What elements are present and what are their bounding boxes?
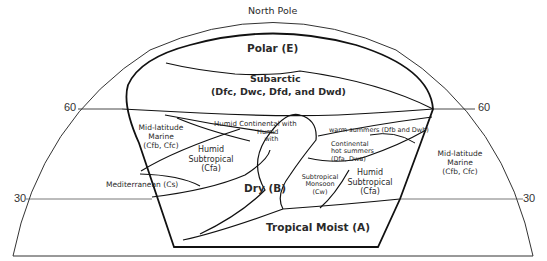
region-tropical-moist: Tropical Moist (A) xyxy=(266,221,370,234)
region-polar: Polar (E) xyxy=(247,42,298,55)
lat-30-east-label: 30 xyxy=(523,192,535,204)
hs-west-line1: Humid xyxy=(186,145,236,155)
mlm-east-line2: Marine xyxy=(432,158,488,167)
hs-west-line2: Subtropical xyxy=(186,155,236,165)
lat-60-east-label: 60 xyxy=(478,101,490,113)
region-mlm-west: Mid-latitude Marine (Cfb, Cfc) xyxy=(136,123,186,150)
region-subarctic-codes: (Dfc, Dwc, Dfd, and Dwd) xyxy=(211,86,346,97)
tropical-boundary xyxy=(183,199,400,240)
mlm-west-line2: Marine xyxy=(136,132,186,141)
mlm-west-line3: (Cfb, Cfc) xyxy=(136,141,186,150)
mlm-east-pointer xyxy=(370,134,415,143)
region-humid-continental-with: Humid Continental with xyxy=(214,120,297,128)
region-subarctic-title: Subarctic xyxy=(250,73,301,84)
lat-60-west-label: 60 xyxy=(64,101,76,113)
humid-with-line2: with xyxy=(257,136,278,143)
hs-east-line3: (Cfa) xyxy=(342,187,398,197)
mlm-east-line1: Mid-latitude xyxy=(432,149,488,158)
cont-hot-line3: (Dfa, Dwa) xyxy=(331,156,374,163)
region-warm-summers: warm summers (Dfb and Dwb) xyxy=(329,127,429,134)
hs-east-line1: Humid xyxy=(342,168,398,178)
region-continental-hot: Continental hot summers (Dfa, Dwa) xyxy=(331,141,374,163)
subarctic-boundary xyxy=(122,109,433,116)
hs-east-line2: Subtropical xyxy=(342,178,398,188)
mlm-east-line3: (Cfb, Cfc) xyxy=(432,167,488,176)
climate-diagram: North Pole 60 60 30 30 Polar (E) Subarct… xyxy=(0,0,547,261)
region-subtropical-monsoon: Subtropical Monsoon (Cw) xyxy=(300,174,340,196)
region-mediterranean: Mediterranean (Cs) xyxy=(106,180,178,189)
region-humid-with: Humid with xyxy=(257,129,278,144)
region-dry: Dry (B) xyxy=(244,182,286,195)
region-mlm-east: Mid-latitude Marine (Cfb, Cfc) xyxy=(432,149,488,176)
region-hs-west: Humid Subtropical (Cfa) xyxy=(186,145,236,174)
north-pole-label: North Pole xyxy=(248,5,297,16)
region-hs-east: Humid Subtropical (Cfa) xyxy=(342,168,398,197)
hs-west-line3: (Cfa) xyxy=(186,164,236,174)
lat-30-west-label: 30 xyxy=(14,192,26,204)
monsoon-line3: (Cw) xyxy=(300,189,340,196)
mlm-west-line1: Mid-latitude xyxy=(136,123,186,132)
